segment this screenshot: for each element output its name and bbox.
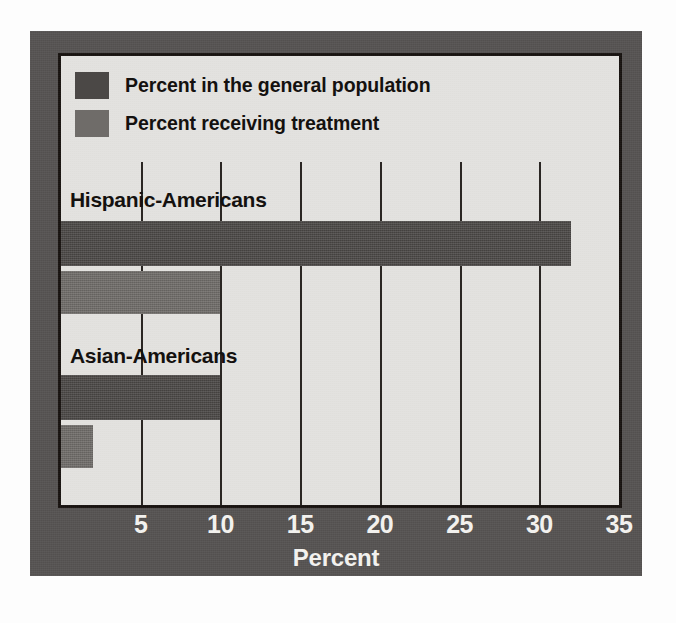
- bar-hispanic-americans-treatment: [61, 271, 220, 314]
- gridline-15: [300, 162, 302, 505]
- plot-area: Percent in the general population Percen…: [58, 53, 622, 508]
- gridline-30: [539, 162, 541, 505]
- bar-hispanic-americans-general: [61, 221, 571, 266]
- xtick-label-15: 15: [287, 510, 314, 539]
- chart-frame: Percent in the general population Percen…: [30, 31, 642, 576]
- xtick-label-20: 20: [366, 510, 393, 539]
- category-label-hispanic-americans: Hispanic-Americans: [70, 188, 267, 212]
- gridline-20: [380, 162, 382, 505]
- xtick-label-25: 25: [446, 510, 473, 539]
- x-axis-title: Percent: [30, 544, 642, 572]
- gridline-25: [460, 162, 462, 505]
- xtick-label-35: 35: [606, 510, 633, 539]
- gridline-10: [220, 162, 222, 505]
- legend-label-treatment: Percent receiving treatment: [125, 112, 379, 135]
- legend-label-general: Percent in the general population: [125, 74, 431, 97]
- chart-legend: Percent in the general population Percen…: [75, 68, 431, 144]
- category-label-asian-americans: Asian-Americans: [70, 344, 237, 368]
- legend-swatch-general: [75, 72, 109, 99]
- xtick-label-30: 30: [526, 510, 553, 539]
- xtick-label-10: 10: [207, 510, 234, 539]
- xtick-label-5: 5: [134, 510, 147, 539]
- legend-swatch-treatment: [75, 110, 109, 137]
- legend-item-treatment: Percent receiving treatment: [75, 106, 431, 140]
- figure-canvas: Percent in the general population Percen…: [0, 0, 676, 623]
- gridline-5: [141, 162, 143, 505]
- bar-asian-americans-treatment: [61, 425, 93, 468]
- bar-asian-americans-general: [61, 375, 220, 420]
- legend-item-general: Percent in the general population: [75, 68, 431, 102]
